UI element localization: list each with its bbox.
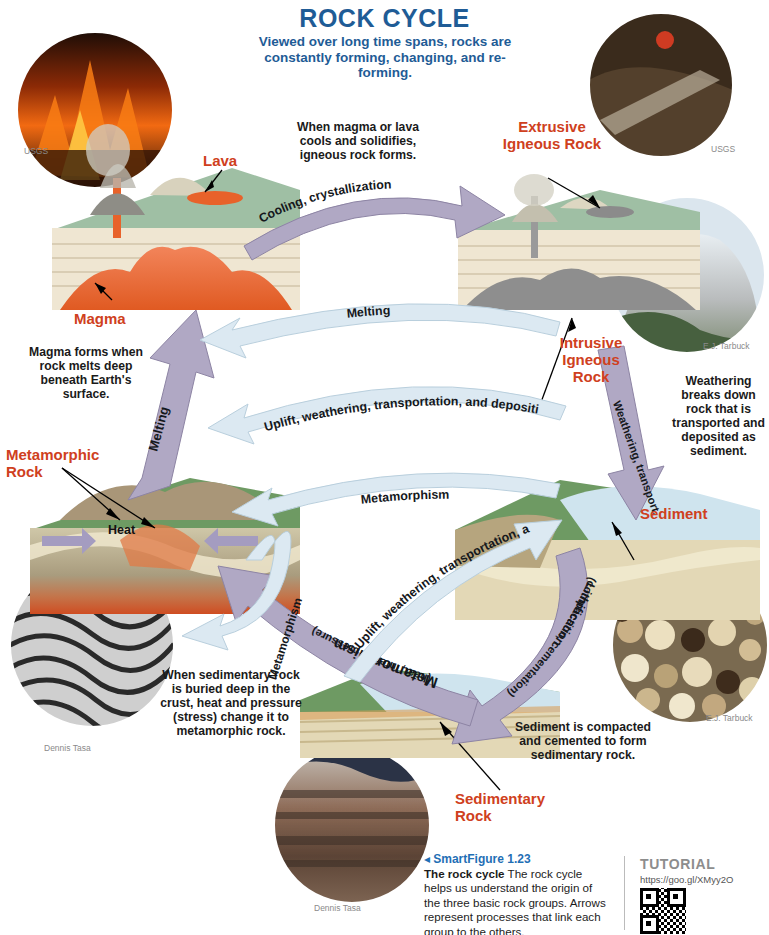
note-lithification: Sediment is compacted and cemented to fo…	[508, 720, 658, 762]
figure-caption: ◂ SmartFigure 1.23 The rock cycle The ro…	[424, 852, 609, 935]
label-intrusive-igneous-rock: Intrusive Igneous Rock	[548, 334, 634, 385]
note-magma: Magma forms when rock melts deep beneath…	[18, 345, 154, 401]
label-extrusive-line2: Igneous Rock	[498, 135, 606, 152]
label-intrusive-line3: Rock	[548, 368, 634, 385]
label-extrusive-line1: Extrusive	[498, 118, 606, 135]
credit-usgs-left: USGS	[24, 146, 48, 156]
tutorial-label: TUTORIAL	[640, 856, 715, 872]
smartfigure-link[interactable]: ◂ SmartFigure 1.23	[424, 852, 609, 867]
label-extrusive-igneous-rock: Extrusive Igneous Rock	[498, 118, 606, 152]
note-igneous: When magma or lava cools and solidifies,…	[283, 120, 433, 162]
label-metamorphic-line2: Rock	[6, 463, 106, 480]
label-intrusive-line2: Igneous	[548, 351, 634, 368]
label-sedimentary-rock: Sedimentary Rock	[455, 790, 565, 824]
label-metamorphic-rock: Metamorphic Rock	[6, 446, 106, 480]
label-magma: Magma	[74, 310, 126, 327]
note-weathering: Weathering breaks down rock that is tran…	[668, 374, 769, 458]
caption-body: The rock cycle The rock cycle helps us u…	[424, 867, 609, 935]
credit-tasa-gneiss: Dennis Tasa	[44, 743, 91, 753]
caption-triangle-icon: ◂	[424, 852, 430, 865]
smartfigure-label: SmartFigure 1.23	[433, 852, 530, 866]
qr-code[interactable]	[640, 888, 686, 934]
caption-divider	[624, 856, 625, 930]
tutorial-url[interactable]: https://goo.gl/XMyy2O	[640, 874, 733, 885]
label-sedimentary-line1: Sedimentary	[455, 790, 565, 807]
credit-tarbuck-rock: E.J. Tarbuck	[703, 341, 750, 351]
arrow-melting-horizontal: Melting	[200, 303, 560, 358]
label-sedimentary-line2: Rock	[455, 807, 565, 824]
arrow-melting-vertical: Melting	[128, 310, 214, 500]
label-metamorphic-line1: Metamorphic	[6, 446, 106, 463]
label-sediment: Sediment	[640, 505, 708, 522]
label-intrusive-line1: Intrusive	[548, 334, 634, 351]
label-heat: Heat	[108, 523, 135, 537]
credit-tarbuck-sand: E.J. Tarbuck	[706, 713, 753, 723]
credit-usgs-right: USGS	[711, 144, 735, 154]
label-lava: Lava	[203, 152, 237, 169]
caption-lead: The rock cycle	[424, 867, 505, 880]
credit-tasa-canyon: Dennis Tasa	[314, 903, 361, 913]
note-metamorphism: When sedimentary rock is buried deep in …	[160, 668, 302, 738]
